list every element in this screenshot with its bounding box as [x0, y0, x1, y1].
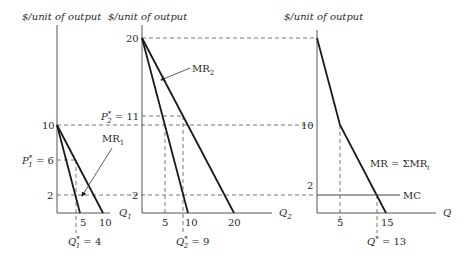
- panel2-quantity-label: Q*2 = 9: [176, 235, 209, 250]
- third-degree-price-discrimination-diagram: $/unit of output Q1 10 2 5 10 P*1 = 6 Q*…: [0, 0, 472, 260]
- panel3-x-axis-label: Q: [443, 207, 451, 218]
- panel2-y-axis-label: $/unit of output: [108, 11, 188, 22]
- panel1-ytick-10: 10: [42, 120, 55, 131]
- panel3-quantity-label: Q* = 13: [367, 235, 406, 247]
- panel3-ytick-2: 2: [307, 180, 313, 191]
- demand-curve-2: [142, 38, 234, 213]
- panel2-ytick-20: 20: [126, 33, 139, 44]
- panel2-price-label: P*2 = 11: [100, 110, 139, 125]
- panel1-x-axis-label: Q1: [119, 207, 132, 221]
- panel1-y-axis-label: $/unit of output: [22, 11, 102, 22]
- mr2-pointer-arrow: [161, 68, 190, 80]
- panel3-y-axis-label: $/unit of output: [284, 11, 364, 22]
- panel1-xtick-10: 10: [99, 217, 112, 228]
- aggregate-mr-label: MR = ΣMRi: [370, 158, 430, 172]
- panel1-ytick-2: 2: [47, 190, 53, 201]
- mr1-curve: [57, 125, 80, 213]
- mr2-label: MR2: [192, 63, 214, 77]
- panel1-price-label: P*1 = 6: [21, 154, 54, 169]
- mr1-label: MR1: [102, 133, 124, 147]
- mc-label: MC: [403, 190, 421, 201]
- panel2-xtick-20: 20: [228, 217, 241, 228]
- mr2-curve: [142, 38, 188, 213]
- panel3-ytick-10: 10: [301, 120, 314, 131]
- demand-curve-1: [57, 125, 103, 213]
- mr1-pointer-arrow: [82, 148, 112, 196]
- panel3-xtick-5: 5: [337, 217, 343, 228]
- panel-aggregate: $/unit of output Q 10 2 5 15 Q* = 13 MR …: [284, 11, 451, 247]
- panel3-xtick-15: 15: [381, 217, 394, 228]
- panel1-xtick-5: 5: [80, 217, 86, 228]
- panel2-ytick-2: 2: [132, 190, 138, 201]
- panel1-quantity-label: Q*1 = 4: [68, 235, 101, 250]
- panel2-xtick-5: 5: [162, 217, 168, 228]
- panel-market-2: $/unit of output Q2 20 2 5 10 20 P*2 = 1…: [100, 11, 317, 250]
- aggregate-mr-curve: [317, 38, 386, 213]
- panel2-x-axis-label: Q2: [279, 207, 292, 221]
- panel2-xtick-10: 10: [185, 217, 198, 228]
- panel-market-1: $/unit of output Q1 10 2 5 10 P*1 = 6 Q*…: [21, 11, 316, 250]
